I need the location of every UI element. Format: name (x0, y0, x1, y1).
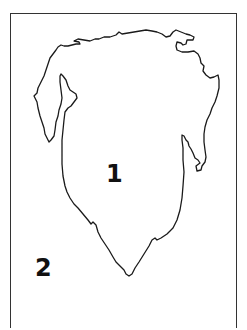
landmass-coastline (34, 30, 219, 276)
region-label-2: 2 (35, 256, 52, 280)
region-label-1: 1 (106, 162, 123, 186)
